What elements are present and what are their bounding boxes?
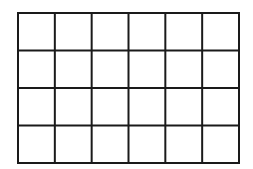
grid-diagram (0, 0, 253, 169)
grid-lines (17, 12, 240, 164)
